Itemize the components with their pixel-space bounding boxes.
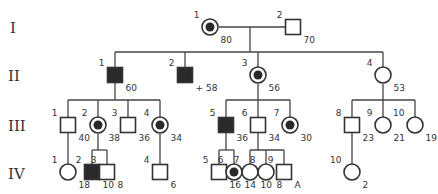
individual-number: 1 xyxy=(52,108,58,118)
individual-age: 6 xyxy=(171,180,177,190)
male-symbol xyxy=(153,165,168,180)
individual-number: 8 xyxy=(250,155,256,165)
inner-dot xyxy=(156,121,165,130)
individual-ii-4: 453 xyxy=(367,58,405,93)
female-symbol xyxy=(344,164,360,180)
male-symbol xyxy=(286,20,301,35)
male-symbol xyxy=(345,118,360,133)
individual-age: 16 xyxy=(230,180,242,190)
individual-age: 34 xyxy=(171,133,183,143)
individual-number: 2 xyxy=(277,10,283,20)
individual-number: 2 xyxy=(76,155,82,165)
individual-age: + 58 xyxy=(196,83,218,93)
individual-number: 3 xyxy=(91,155,97,165)
individual-age: 19 xyxy=(426,133,438,143)
individual-number: 10 xyxy=(393,108,405,118)
female-symbol xyxy=(242,164,258,180)
individual-age: 34 xyxy=(269,133,281,143)
female-symbol xyxy=(375,117,391,133)
individual-age: 53 xyxy=(394,83,405,93)
pedigree-chart: I II III IV 1802701602+ 5835645314023833… xyxy=(0,0,438,194)
individual-age: 70 xyxy=(304,35,316,45)
individual-age: 10 xyxy=(261,180,273,190)
individual-ii-2: 2+ 58 xyxy=(169,58,218,93)
individual-ii-1: 160 xyxy=(99,58,137,93)
individual-number: 4 xyxy=(144,155,150,165)
female-symbol xyxy=(60,164,76,180)
male-symbol xyxy=(100,165,115,180)
individual-age: 18 xyxy=(79,180,91,190)
individual-number: 2 xyxy=(82,108,88,118)
individual-number: 2 xyxy=(169,58,175,68)
individual-number: 1 xyxy=(194,10,200,20)
affected-male-symbol xyxy=(219,118,234,133)
male-symbol xyxy=(212,165,227,180)
individual-number: 4 xyxy=(367,58,373,68)
female-symbol xyxy=(258,164,274,180)
individual-number: 8 xyxy=(336,108,342,118)
individual-number: 9 xyxy=(367,108,373,118)
individual-age: 36 xyxy=(139,133,151,143)
individual-number: 9 xyxy=(268,155,274,165)
individual-age: 10 xyxy=(103,180,115,190)
individual-age: 30 xyxy=(301,133,313,143)
affected-male-symbol xyxy=(85,165,100,180)
inner-dot xyxy=(286,121,295,130)
generation-label-iv: IV xyxy=(8,165,26,183)
individual-number: 6 xyxy=(218,155,224,165)
inner-dot xyxy=(94,121,103,130)
individual-age: 21 xyxy=(394,133,405,143)
inner-dot xyxy=(254,71,263,80)
female-symbol xyxy=(375,67,391,83)
generation-labels: I II III IV xyxy=(8,19,26,183)
individual-number: 7 xyxy=(274,108,280,118)
inner-dot xyxy=(230,168,239,177)
affected-male-symbol xyxy=(108,68,123,83)
individual-age: 23 xyxy=(363,133,374,143)
individual-age: 2 xyxy=(363,180,369,190)
affected-male-symbol xyxy=(178,68,193,83)
inner-dot xyxy=(206,23,215,32)
individual-number: 1 xyxy=(99,58,105,68)
individual-number: 3 xyxy=(112,108,118,118)
relationship-lines xyxy=(68,27,415,165)
male-symbol xyxy=(61,118,76,133)
individual-age: 14 xyxy=(245,180,257,190)
individual-number: 6 xyxy=(242,108,248,118)
male-symbol xyxy=(277,165,292,180)
individual-number: 1 xyxy=(52,155,58,165)
individual-number: 5 xyxy=(203,155,209,165)
individual-age: 36 xyxy=(237,133,249,143)
individual-ii-3: 356 xyxy=(242,58,280,93)
generation-label-iii: III xyxy=(8,117,26,135)
generation-label-i: I xyxy=(10,19,16,37)
individual-age: 60 xyxy=(126,83,138,93)
individual-age: A xyxy=(295,180,302,190)
individual-age: 56 xyxy=(269,83,281,93)
individual-age: 8 xyxy=(118,180,124,190)
individual-number: 5 xyxy=(210,108,216,118)
male-symbol xyxy=(121,118,136,133)
individual-number: 4 xyxy=(144,108,150,118)
individual-age: 8 xyxy=(277,180,283,190)
individual-number: 10 xyxy=(330,155,342,165)
generation-label-ii: II xyxy=(8,67,20,85)
individual-number: 3 xyxy=(242,58,248,68)
individual-iv-10: 102 xyxy=(330,155,368,190)
individual-age: 40 xyxy=(79,133,91,143)
individual-age: 38 xyxy=(109,133,121,143)
male-symbol xyxy=(251,118,266,133)
female-symbol xyxy=(407,117,423,133)
individual-age: 80 xyxy=(221,35,233,45)
individual-number: 7 xyxy=(234,155,240,165)
